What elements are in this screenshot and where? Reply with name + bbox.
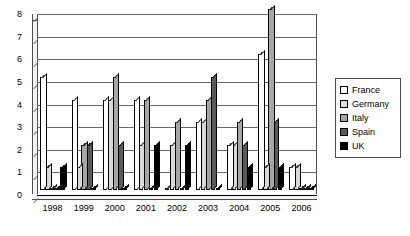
bar-side-face xyxy=(90,141,93,189)
bar-side-face xyxy=(235,141,238,189)
year-group xyxy=(193,14,224,195)
bar xyxy=(149,188,153,190)
bar-side-face xyxy=(126,184,129,189)
y-tick-label: 4 xyxy=(17,100,22,109)
bar xyxy=(304,188,308,190)
bar xyxy=(309,188,313,190)
year-group xyxy=(68,14,99,195)
bar-side-face xyxy=(49,163,52,189)
bar-side-face xyxy=(204,118,207,189)
bar-side-face xyxy=(106,96,109,190)
x-tick-label: 1999 xyxy=(74,203,94,213)
legend-swatch-icon xyxy=(340,142,348,150)
y-tick-label: 8 xyxy=(17,10,22,19)
legend-swatch-icon xyxy=(340,86,348,94)
y-tick-label: 6 xyxy=(17,55,22,64)
bar-side-face xyxy=(298,163,301,189)
y-tick-label: 3 xyxy=(17,123,22,132)
bar xyxy=(40,77,44,190)
bar-side-face xyxy=(240,118,243,189)
bar xyxy=(50,188,54,190)
year-group xyxy=(37,14,68,195)
bar xyxy=(165,188,169,190)
bar-chart: 012345678 199819992000200120022003200420… xyxy=(0,0,410,236)
legend-item[interactable]: Germany xyxy=(340,97,397,111)
bar xyxy=(180,188,184,190)
bar-side-face xyxy=(281,163,284,189)
bar xyxy=(216,188,220,190)
bar-side-face xyxy=(245,141,248,189)
bar xyxy=(258,54,262,190)
y-tick-label: 5 xyxy=(17,77,22,86)
x-tick-label: 2003 xyxy=(198,203,218,213)
legend-swatch-icon xyxy=(340,114,348,122)
bar-side-face xyxy=(214,73,217,189)
x-tick-label: 2005 xyxy=(260,203,280,213)
legend-item[interactable]: France xyxy=(340,83,397,97)
y-tick-label: 7 xyxy=(17,32,22,41)
bar-side-face xyxy=(85,141,88,189)
bar-side-face xyxy=(116,73,119,189)
year-group xyxy=(286,14,317,195)
bar-side-face xyxy=(173,141,176,189)
gridline xyxy=(37,195,317,196)
bar xyxy=(122,188,126,190)
bar xyxy=(103,100,107,191)
bar-side-face xyxy=(262,50,265,189)
bar-side-face xyxy=(157,141,160,189)
year-group xyxy=(130,14,161,195)
bar-side-face xyxy=(267,163,270,189)
bar xyxy=(72,100,76,191)
bar xyxy=(196,122,200,190)
x-tick-label: 2001 xyxy=(136,203,156,213)
bar-side-face xyxy=(142,141,145,189)
legend-item[interactable]: Italy xyxy=(340,111,397,125)
legend-label: UK xyxy=(352,142,365,151)
legend-label: Italy xyxy=(352,114,369,123)
bar-side-face xyxy=(178,118,181,189)
bar-side-face xyxy=(95,184,98,189)
x-tick-label: 1998 xyxy=(43,203,63,213)
y-axis: 012345678 xyxy=(0,0,26,236)
bar-side-face xyxy=(272,5,275,189)
bar-side-face xyxy=(75,96,78,190)
bar xyxy=(55,188,59,190)
legend-item[interactable]: UK xyxy=(340,139,397,153)
x-tick-label: 2006 xyxy=(291,203,311,213)
year-group xyxy=(161,14,192,195)
bar xyxy=(227,145,231,190)
year-group xyxy=(255,14,286,195)
x-tick-label: 2000 xyxy=(105,203,125,213)
bar xyxy=(299,188,303,190)
bar xyxy=(289,167,293,190)
chart-legend: FranceGermanyItalySpainUK xyxy=(335,78,401,158)
legend-swatch-icon xyxy=(340,100,348,108)
y-tick-label: 0 xyxy=(17,191,22,200)
year-group xyxy=(224,14,255,195)
legend-item[interactable]: Spain xyxy=(340,125,397,139)
x-axis: 199819992000200120022003200420052006 xyxy=(32,203,317,219)
bar-side-face xyxy=(199,118,202,189)
bar-side-face xyxy=(293,163,296,189)
x-tick-label: 2002 xyxy=(167,203,187,213)
legend-swatch-icon xyxy=(340,128,348,136)
bar-side-face xyxy=(137,96,140,190)
y-tick-label: 1 xyxy=(17,168,22,177)
bar-side-face xyxy=(209,96,212,190)
bar-side-face xyxy=(147,96,150,190)
bar-side-face xyxy=(250,163,253,189)
x-tick-label: 2004 xyxy=(229,203,249,213)
bar-side-face xyxy=(44,73,47,189)
bars-layer xyxy=(37,14,317,195)
legend-label: Germany xyxy=(352,100,389,109)
legend-label: Spain xyxy=(352,128,375,137)
bar-side-face xyxy=(231,141,234,189)
legend-label: France xyxy=(352,86,380,95)
year-group xyxy=(99,14,130,195)
bar-side-face xyxy=(188,141,191,189)
bar-side-face xyxy=(64,163,67,189)
y-tick-label: 2 xyxy=(17,145,22,154)
bar-side-face xyxy=(80,163,83,189)
bar xyxy=(91,188,95,190)
bar xyxy=(134,100,138,191)
